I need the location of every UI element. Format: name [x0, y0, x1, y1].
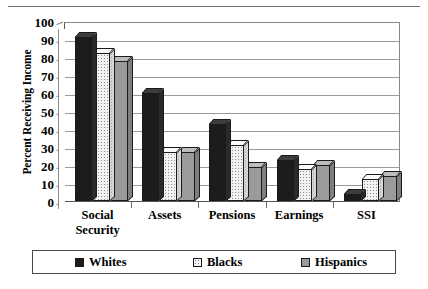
y-tick-label-50: 50 [24, 106, 54, 119]
y-tick-label-100: 100 [24, 16, 54, 29]
y-tick-label-80: 80 [24, 52, 54, 65]
plot-area [64, 22, 400, 202]
legend-item-hispanics[interactable]: Hispanics [301, 254, 367, 271]
bar-side-face [195, 148, 200, 201]
bar-side-face [244, 141, 249, 201]
bar-group [65, 23, 132, 201]
bar [209, 124, 226, 201]
bar-side-face [226, 119, 231, 201]
bar-side-face [128, 56, 133, 201]
chart-legend: WhitesBlacksHispanics [32, 250, 396, 274]
bar-side-face [330, 160, 335, 201]
bar-side-face [159, 88, 164, 201]
bar-side-face [262, 162, 267, 201]
x-category-label: Pensions [198, 208, 265, 223]
y-tick-label-40: 40 [24, 124, 54, 137]
bar-chart-figure: Percent Receiving Income 010203040506070… [0, 0, 428, 289]
bar-side-face [92, 33, 97, 201]
legend-item-whites[interactable]: Whites [75, 254, 127, 271]
x-category-label: Social Security [64, 208, 131, 238]
bar-side-face [294, 155, 299, 201]
x-category-label: Assets [131, 208, 198, 223]
bar-group [132, 23, 199, 201]
x-category-label: Earnings [266, 208, 333, 223]
bar-front-face [209, 124, 226, 201]
bar [75, 37, 92, 201]
plot-left-wall [58, 29, 65, 209]
y-tick-mark-100 [56, 22, 63, 26]
bar-front-face [142, 93, 159, 201]
legend-label: Whites [89, 255, 127, 270]
bar-side-face [110, 49, 115, 201]
bar-front-face [344, 194, 361, 201]
bar [142, 93, 159, 201]
bar-group [199, 23, 266, 201]
y-axis-tick-labels: 0102030405060708090100 [24, 14, 54, 210]
legend-swatch-icon [75, 258, 84, 267]
legend-swatch-icon [301, 258, 310, 267]
bar-side-face [312, 164, 317, 201]
bar-side-face [177, 148, 182, 201]
y-tick-label-0: 0 [24, 196, 54, 209]
x-category-label: SSI [333, 208, 400, 223]
legend-swatch-icon [193, 258, 202, 267]
legend-label: Blacks [207, 255, 242, 270]
legend-label: Hispanics [315, 255, 367, 270]
x-axis-category-labels: Social SecurityAssetsPensionsEarningsSSI [64, 208, 400, 252]
bar-group [267, 23, 334, 201]
legend-item-blacks[interactable]: Blacks [193, 254, 242, 271]
y-tick-label-90: 90 [24, 34, 54, 47]
bar-side-face [397, 171, 402, 201]
y-tick-label-20: 20 [24, 160, 54, 173]
y-tick-label-30: 30 [24, 142, 54, 155]
bar-front-face [277, 160, 294, 201]
bars-layer [65, 23, 399, 201]
y-tick-label-10: 10 [24, 178, 54, 191]
bar-front-face [75, 37, 92, 201]
bar [344, 194, 361, 201]
y-tick-label-70: 70 [24, 70, 54, 83]
y-tick-label-60: 60 [24, 88, 54, 101]
bar-group [334, 23, 401, 201]
bar [277, 160, 294, 201]
